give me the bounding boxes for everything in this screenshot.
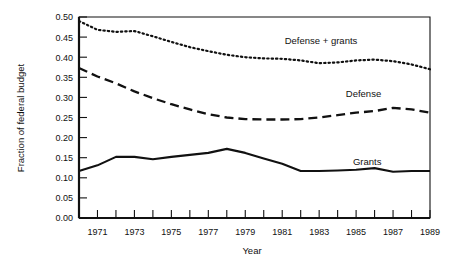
y-tick-label: 0.10 (55, 173, 73, 183)
series-label-defense-grants: Defense + grants (285, 35, 358, 46)
x-tick-label: 1985 (346, 227, 366, 237)
y-axis-title: Fraction of federal budget (15, 64, 26, 173)
y-tick-label: 0.40 (55, 53, 73, 63)
series-label-grants: Grants (353, 156, 382, 167)
y-tick-label: 0.50 (55, 12, 73, 22)
x-tick-label: 1983 (309, 227, 329, 237)
x-tick-label: 1975 (161, 227, 181, 237)
chart-figure: 0.000.050.100.150.200.250.300.350.400.45… (0, 0, 464, 275)
y-tick-label: 0.15 (55, 153, 73, 163)
x-tick-label: 1987 (383, 227, 403, 237)
x-tick-label: 1989 (420, 227, 440, 237)
y-tick-label: 0.35 (55, 73, 73, 83)
y-tick-label: 0.25 (55, 113, 73, 123)
x-tick-label: 1981 (272, 227, 292, 237)
y-tick-label: 0.20 (55, 133, 73, 143)
x-tick-label: 1979 (235, 227, 255, 237)
y-tick-label: 0.30 (55, 93, 73, 103)
y-tick-label: 0.05 (55, 193, 73, 203)
y-tick-label: 0.00 (55, 213, 73, 223)
x-axis-title: Year (242, 245, 261, 256)
series-label-defense: Defense (346, 88, 381, 99)
x-tick-label: 1977 (198, 227, 218, 237)
line-chart: 0.000.050.100.150.200.250.300.350.400.45… (0, 0, 464, 275)
x-tick-label: 1973 (124, 227, 144, 237)
y-tick-label: 0.45 (55, 33, 73, 43)
x-tick-label: 1971 (87, 227, 107, 237)
